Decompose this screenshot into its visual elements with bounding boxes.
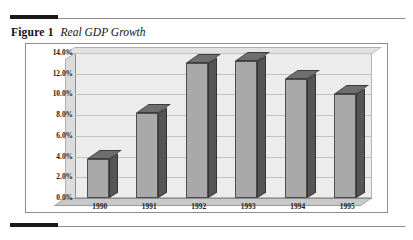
x-axis-line	[75, 198, 372, 199]
bar-1993	[235, 61, 257, 198]
x-axis-label-1993: 1993	[224, 202, 274, 214]
bar-1990	[87, 159, 109, 198]
bottom-rule-thick	[10, 223, 58, 227]
bottom-rule-thin	[10, 226, 405, 227]
y-axis-tick: 12.0%	[26, 69, 73, 79]
x-axis-label-1990: 1990	[75, 202, 125, 214]
gridline	[75, 177, 372, 178]
y-axis-tick: 2.0%	[26, 172, 73, 182]
bar-1994	[285, 79, 307, 198]
x-axis-label-1992: 1992	[174, 202, 224, 214]
gridline	[75, 94, 372, 95]
y-axis-tick-label: 2.0%	[29, 172, 73, 181]
bar-side	[208, 58, 217, 198]
figure-box: 0.0%2.0%4.0%6.0%8.0%10.0%12.0%14.0%19901…	[25, 43, 388, 213]
bar-face	[186, 63, 208, 198]
top-rule	[0, 14, 413, 20]
y-axis-tick: 10.0%	[26, 89, 73, 99]
gdp-growth-bar-chart: 0.0%2.0%4.0%6.0%8.0%10.0%12.0%14.0%19901…	[26, 44, 389, 214]
bar-1992	[186, 63, 208, 198]
y-axis-tick-label: 4.0%	[29, 152, 73, 161]
figure-title: Real GDP Growth	[61, 26, 146, 38]
gridline	[75, 136, 372, 137]
bar-face	[285, 79, 307, 198]
y-axis-tick: 8.0%	[26, 110, 73, 120]
y-axis-tick-label: 12.0%	[29, 69, 73, 78]
y-axis-tick: 14.0%	[26, 48, 73, 58]
y-axis-tick-label: 8.0%	[29, 110, 73, 119]
y-axis-tick: 4.0%	[26, 152, 73, 162]
bar-side	[158, 108, 167, 198]
y-axis-tick-label: 6.0%	[29, 131, 73, 140]
plot-background	[75, 53, 372, 198]
bar-side	[307, 73, 316, 198]
x-axis-label-1995: 1995	[323, 202, 373, 214]
x-axis-label-1994: 1994	[273, 202, 323, 214]
gridline	[75, 157, 372, 158]
bar-face	[136, 113, 158, 198]
x-axis-label-1991: 1991	[125, 202, 175, 214]
figure-label: Figure 1	[11, 26, 54, 38]
y-axis-tick: 6.0%	[26, 131, 73, 141]
figure-caption: Figure 1Real GDP Growth	[11, 26, 146, 39]
bar-1991	[136, 113, 158, 198]
gridline	[75, 115, 372, 116]
gridline	[75, 53, 372, 54]
bar-face	[235, 61, 257, 198]
y-axis-tick-label: 0.0%	[29, 193, 73, 202]
bottom-rule	[0, 222, 413, 228]
bar-1995	[334, 94, 356, 198]
bar-side	[109, 153, 118, 198]
figure-page: Figure 1Real GDP Growth 0.0%2.0%4.0%6.0%…	[0, 0, 413, 240]
top-rule-thick	[10, 15, 58, 19]
y-axis-tick-label: 10.0%	[29, 89, 73, 98]
top-rule-thin	[10, 18, 405, 19]
bar-side	[356, 89, 365, 198]
bar-face	[87, 159, 109, 198]
y-axis-tick-label: 14.0%	[29, 48, 73, 57]
bar-face	[334, 94, 356, 198]
gridline	[75, 74, 372, 75]
y-axis-tick: 0.0%	[26, 193, 73, 203]
bar-side	[257, 56, 266, 198]
